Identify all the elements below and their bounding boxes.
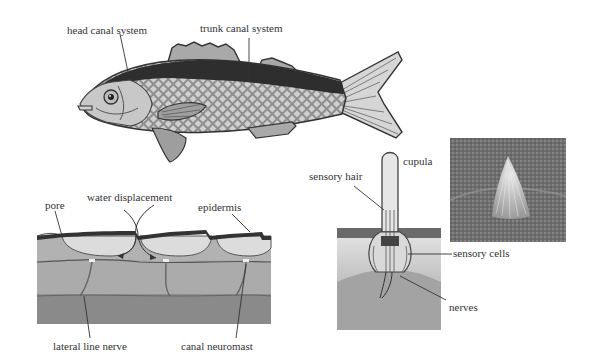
label-water-displacement: water displacement [87,192,172,203]
fish-mouth [78,106,92,110]
sensory-hair-leader [354,186,384,210]
lateral-line-diagram [0,0,592,364]
label-sensory-cells: sensory cells [453,248,510,259]
dorsal-fin [168,42,240,62]
label-epidermis: epidermis [198,202,241,213]
fish-head [80,80,152,126]
label-nerves: nerves [449,302,478,313]
label-pore: pore [45,200,65,211]
label-trunk-canal-system: trunk canal system [200,23,282,34]
head-canal-leader [120,34,128,72]
label-canal-neuromast: canal neuromast [181,341,253,352]
epidermis-leader [232,214,250,232]
fish-illustration [78,34,402,162]
caudal-fin [338,52,402,138]
label-sensory-hair: sensory hair [309,171,362,182]
label-head-canal-system: head canal system [67,25,147,36]
pore-leader [55,211,62,236]
label-cupula: cupula [403,156,432,167]
label-lateral-line-nerve: lateral line nerve [53,341,127,352]
micrograph-photo [450,138,566,242]
canal-cross-section [37,205,271,338]
